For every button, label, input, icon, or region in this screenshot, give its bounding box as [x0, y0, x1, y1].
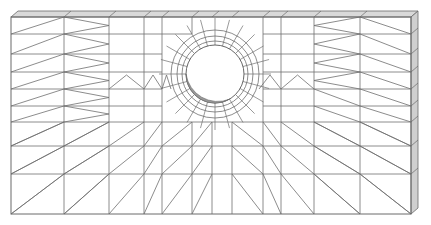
extrusion-faces — [11, 11, 418, 214]
mesh-figure — [0, 0, 431, 225]
side-face — [411, 11, 418, 214]
mesh-diagram — [0, 0, 431, 225]
top-face — [11, 11, 418, 17]
circular-hole — [159, 18, 271, 130]
